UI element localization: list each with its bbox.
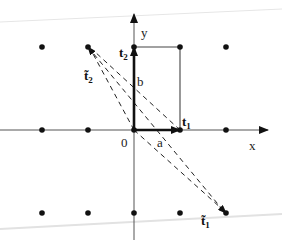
t2-label: t2 <box>119 45 128 62</box>
scan-line-bottom <box>0 214 282 229</box>
lattice-diagram: y x 0 a b t1 t2 t̃2 t̃1 <box>0 0 282 250</box>
origin-label: 0 <box>121 135 128 150</box>
dashed-line-t2-tilde-to-t1-tilde <box>88 47 222 209</box>
t1-tilde-label: t̃1 <box>201 213 210 230</box>
t1-label: t1 <box>182 114 191 131</box>
dashed-line-t1-to-t2-tilde <box>94 51 180 130</box>
scan-line-top <box>0 9 282 22</box>
y-axis-label: y <box>141 25 148 40</box>
vector-b-label: b <box>137 74 144 89</box>
dashed-line-origin-to-t2-tilde <box>92 52 134 130</box>
x-axis-label: x <box>249 138 256 153</box>
dashed-line-origin-to-t1-tilde <box>134 130 222 209</box>
vector-a-label: a <box>157 135 163 150</box>
t2-tilde-label: t̃2 <box>84 68 93 85</box>
